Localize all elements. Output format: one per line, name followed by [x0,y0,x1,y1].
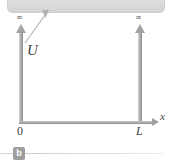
figure-part-strip: b [0,145,173,165]
right-potential-wall [138,31,142,123]
potential-symbol-label: U [27,42,38,59]
infinity-label-left: ∞ [16,13,23,22]
x-axis-arrowhead-icon [152,118,159,126]
figure-screenshot: ∞ ∞ U 0 L x b [0,0,173,165]
part-label-badge: b [13,147,25,160]
left-potential-wall [19,31,23,123]
x-axis-label: x [160,110,165,122]
origin-label: 0 [17,124,23,139]
right-wall-arrowhead-icon [135,24,145,33]
well-width-label: L [136,124,143,139]
infinity-label-right: ∞ [135,13,142,22]
x-axis-line [19,121,154,124]
potential-well-diagram: ∞ ∞ U 0 L x [0,0,173,140]
left-wall-arrowhead-icon [16,24,26,33]
